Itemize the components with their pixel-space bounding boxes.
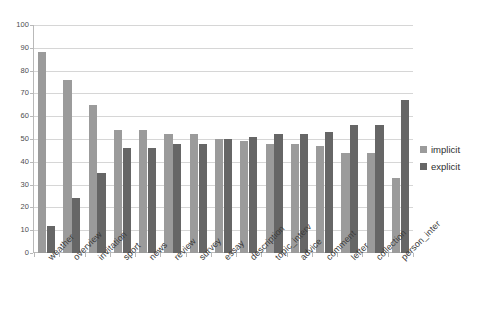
bar-group xyxy=(110,25,135,253)
legend-item-explicit[interactable]: explicit xyxy=(420,161,486,172)
bar-explicit xyxy=(148,148,156,253)
y-axis-tick-label: 30 xyxy=(3,181,29,189)
bar-implicit xyxy=(63,80,71,253)
y-axis-tick-label: 40 xyxy=(3,158,29,166)
y-axis-tick-label: 100 xyxy=(3,21,29,29)
bar-group xyxy=(34,25,59,253)
bar-group xyxy=(337,25,362,253)
y-axis-tick-label: 10 xyxy=(3,226,29,234)
bar-explicit xyxy=(375,125,383,253)
chart-legend: implicitexplicit xyxy=(420,144,486,178)
bar-group xyxy=(312,25,337,253)
legend-label: implicit xyxy=(431,145,460,155)
bar-group xyxy=(362,25,387,253)
legend-swatch-icon xyxy=(420,163,427,170)
bar-explicit xyxy=(72,198,80,253)
legend-label: explicit xyxy=(431,162,460,172)
bar-implicit xyxy=(139,130,147,253)
bar-group xyxy=(261,25,286,253)
bar-explicit xyxy=(173,144,181,253)
bar-implicit xyxy=(367,153,375,253)
bar-implicit xyxy=(164,134,172,253)
bar-explicit xyxy=(224,139,232,253)
x-axis-labels: weatheroverviewinvitationsportnewsreview… xyxy=(0,255,488,326)
bar-chart: 0102030405060708090100 weatheroverviewin… xyxy=(0,0,488,326)
bar-group xyxy=(160,25,185,253)
bar-implicit xyxy=(240,141,248,253)
legend-swatch-icon xyxy=(420,146,427,153)
bar-explicit xyxy=(199,144,207,253)
bar-group xyxy=(287,25,312,253)
bar-group xyxy=(388,25,413,253)
y-axis-tick-label: 80 xyxy=(3,67,29,75)
y-axis-tick-label: 20 xyxy=(3,203,29,211)
y-axis-tick-label: 60 xyxy=(3,112,29,120)
legend-item-implicit[interactable]: implicit xyxy=(420,144,486,155)
y-axis-tick-label: 90 xyxy=(3,44,29,52)
bar-series-layer xyxy=(34,25,412,253)
y-axis-tick-label: 50 xyxy=(3,135,29,143)
bar-implicit xyxy=(38,52,46,253)
y-axis-tick-mark xyxy=(30,253,33,254)
bar-group xyxy=(59,25,84,253)
bar-group xyxy=(85,25,110,253)
bar-group xyxy=(236,25,261,253)
bar-explicit xyxy=(325,132,333,253)
bar-group xyxy=(135,25,160,253)
bar-group xyxy=(186,25,211,253)
y-axis-tick-label: 70 xyxy=(3,89,29,97)
bar-group xyxy=(211,25,236,253)
bar-explicit xyxy=(249,137,257,253)
